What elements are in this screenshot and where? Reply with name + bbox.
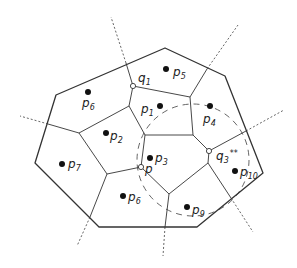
site-dot-icon [59,161,65,167]
site-label: p2 [109,129,123,145]
site-p7: p7 [59,157,82,173]
hollow-point-icon [130,83,135,88]
voronoi-edge [129,86,133,106]
site-label: p6 [81,96,95,112]
site-p10: p10 [232,165,258,181]
voronoi-edge [90,174,107,217]
site-label: p1 [140,102,154,118]
voronoi-edge [208,163,231,198]
site-dot-icon [157,103,163,109]
voronoi-edges [48,63,246,227]
site-label: p10 [239,165,258,181]
voronoi-edge [190,97,193,135]
site-p2: p2 [103,129,123,145]
site-label: p5 [172,65,186,81]
hollow-point-icon [138,164,143,169]
query-q1: q1 [130,71,150,89]
voronoi-edge [107,167,141,174]
query-label: p [144,162,153,176]
site-p4: p4 [202,103,216,128]
site-label: p9 [191,203,205,219]
ray [163,227,165,256]
site-label: p4 [202,112,216,128]
site-label: p6 [127,190,141,206]
site-p9: p9 [184,203,205,219]
site-dot-icon [207,103,213,109]
query-q3: q3** [206,148,237,165]
ray [111,17,126,63]
ray [207,25,238,69]
voronoi-edge [169,163,208,194]
site-dot-icon [85,89,91,95]
voronoi-edge [48,124,79,133]
site-dot-icon [120,193,126,199]
unbounded-rays [20,17,284,256]
site-label: p3 [154,151,168,167]
voronoi-edge [79,106,129,133]
hollow-point-icon [206,148,211,153]
voronoi-edge [133,86,190,97]
site-dot-icon [103,130,109,136]
site-p5: p5 [163,65,186,81]
query-label: q1 [138,71,151,87]
site-dot-icon [232,168,238,174]
ray [231,198,253,232]
voronoi-edge [209,131,246,151]
voronoi-edge [190,69,207,97]
voronoi-edge [193,135,209,151]
site-p8: p6 [120,190,141,206]
voronoi-edge [79,133,107,174]
site-label: p7 [67,157,82,173]
query-label: q3** [216,149,238,165]
site-p1: p1 [140,102,163,118]
outer-boundary [35,48,263,227]
site-dot-icon [163,66,169,72]
ray [77,217,90,246]
site-dot-icon [184,204,190,210]
voronoi-edge [126,63,133,86]
voronoi-diagram: p1p2p3p4p5p6p7p6p9p10 q1q3**p [0,0,297,268]
site-dot-icon [147,155,153,161]
query-p: p [138,162,153,176]
query-points: q1q3**p [130,71,237,176]
ray [246,110,284,131]
site-points: p1p2p3p4p5p6p7p6p9p10 [59,65,258,219]
ray [20,116,48,124]
site-p6: p6 [81,89,95,112]
